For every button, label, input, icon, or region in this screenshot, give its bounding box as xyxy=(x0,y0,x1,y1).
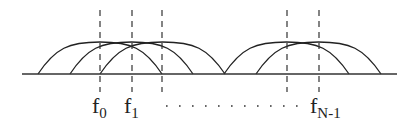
subcarrier-spectrum-diagram: f0 f1 fN-1 xyxy=(0,0,415,128)
label-fN-1-sub: N-1 xyxy=(317,105,340,121)
curves-group xyxy=(38,42,381,74)
dashed-lines-group xyxy=(100,10,319,92)
label-f1: f1 xyxy=(124,93,139,121)
label-f0: f0 xyxy=(92,93,107,121)
label-f1-sub: 1 xyxy=(131,105,139,121)
label-fN-1: fN-1 xyxy=(310,93,341,121)
label-f0-sub: 0 xyxy=(99,105,107,121)
